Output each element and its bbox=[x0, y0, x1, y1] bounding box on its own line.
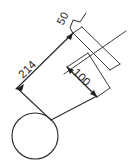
extension-line-offset bbox=[82, 27, 120, 64]
technical-drawing-canvas: 214 100 50 bbox=[0, 0, 130, 168]
extension-line-inner-right bbox=[88, 53, 110, 88]
geom-line-left-leg bbox=[17, 88, 51, 120]
extension-line-long-diagonal bbox=[64, 31, 126, 74]
dimension-line-214 bbox=[16, 33, 73, 89]
extension-line-bottom-cap bbox=[110, 64, 120, 70]
dimension-label-214: 214 bbox=[16, 58, 39, 81]
sketch-svg: 214 100 50 bbox=[0, 0, 130, 168]
extension-line-inner-bottom bbox=[97, 88, 110, 97]
dimension-label-100: 100 bbox=[70, 66, 93, 89]
geom-line-right-leg bbox=[51, 96, 97, 120]
dimension-label-50: 50 bbox=[54, 10, 71, 27]
extension-line-top-cap bbox=[73, 27, 82, 33]
